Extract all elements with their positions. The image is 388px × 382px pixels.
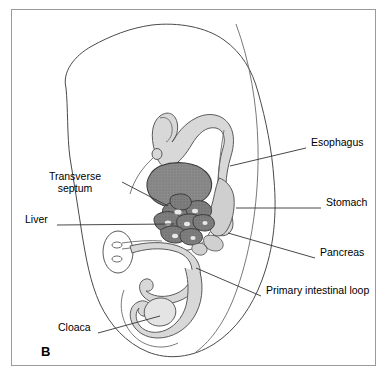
label-liver: Liver <box>25 213 48 225</box>
umbilical-ring <box>103 231 133 273</box>
vessel-node <box>152 149 162 160</box>
label-esophagus: Esophagus <box>311 136 364 148</box>
label-stomach: Stomach <box>326 196 367 208</box>
label-pancreas: Pancreas <box>320 246 364 258</box>
cloaca-chamber <box>144 298 176 326</box>
umbilical-vessel-lower <box>112 256 122 262</box>
panel-letter-b: B <box>41 344 50 359</box>
umbilical-vessel-upper <box>112 242 122 248</box>
label-primary-intestinal-loop: Primary intestinal loop <box>266 284 370 296</box>
label-cloaca: Cloaca <box>58 321 91 333</box>
label-transverse-septum: Transverse septum <box>32 170 118 194</box>
embryology-figure-panel-b: Esophagus Stomach Pancreas Primary intes… <box>0 0 388 382</box>
